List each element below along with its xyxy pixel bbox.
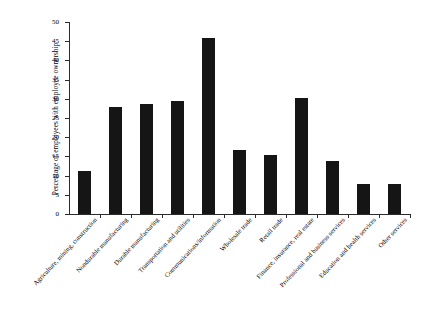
plot-area: 05101520253035404550	[69, 22, 410, 214]
x-axis-line	[69, 214, 410, 215]
x-axis-label: Education and health services	[317, 216, 377, 279]
y-axis-line	[69, 22, 70, 214]
y-tick-label: 10	[52, 172, 59, 180]
y-tick-label: 40	[52, 56, 59, 64]
y-tick-label: 5	[56, 191, 60, 199]
y-tick: 0	[65, 214, 69, 215]
x-tick	[410, 214, 411, 218]
bar	[357, 184, 370, 214]
y-tick-label: 50	[52, 18, 59, 26]
y-tick-label: 0	[56, 210, 60, 218]
bar	[171, 101, 184, 214]
bar	[109, 107, 122, 214]
bar	[388, 184, 401, 214]
x-axis-label: Other services	[376, 216, 407, 249]
x-axis-label: Communications/information	[162, 216, 221, 279]
x-axis-label: Finance, insurance, real estate	[254, 216, 314, 280]
x-axis-label: Professional and business services	[278, 216, 346, 288]
y-tick-label: 35	[52, 76, 59, 84]
y-tick: 50	[65, 22, 69, 23]
y-tick: 10	[65, 176, 69, 177]
y-tick-label: 20	[52, 133, 59, 141]
x-axis-label: Transportation and utilities	[136, 216, 191, 274]
x-axis-label: Wholesale trade	[218, 216, 253, 253]
y-tick-label: 30	[52, 95, 59, 103]
y-tick: 15	[65, 156, 69, 157]
x-axis-label: Retail trade	[257, 216, 283, 244]
bar	[202, 38, 215, 214]
y-tick-label: 45	[52, 37, 59, 45]
y-tick: 25	[65, 118, 69, 119]
bar	[295, 98, 308, 214]
y-tick-label: 25	[52, 114, 59, 122]
bar	[264, 155, 277, 214]
y-tick: 5	[65, 195, 69, 196]
x-axis-label: Agriculture, mining, construction	[31, 216, 97, 287]
bar	[326, 161, 339, 214]
y-tick: 40	[65, 60, 69, 61]
bar-chart: Percentage of employees with employee ow…	[0, 0, 423, 322]
x-axis-labels: Agriculture, mining, constructionNondura…	[69, 216, 410, 316]
bar	[140, 104, 153, 214]
y-tick-label: 15	[52, 152, 59, 160]
y-tick: 35	[65, 80, 69, 81]
y-tick: 20	[65, 137, 69, 138]
x-axis-label: Nondurable manufacturing	[74, 216, 129, 274]
bar	[78, 171, 91, 214]
bar	[233, 150, 246, 214]
y-tick: 45	[65, 41, 69, 42]
y-tick: 30	[65, 99, 69, 100]
